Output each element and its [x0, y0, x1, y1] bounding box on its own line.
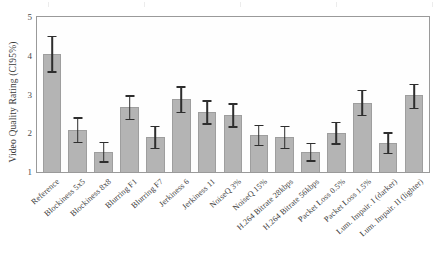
error-bar-cap-lower [125, 119, 134, 121]
bar-slot [246, 17, 272, 172]
bar-slot [298, 17, 324, 172]
error-bar-cap-upper [73, 117, 82, 119]
error-bar-cap-lower [358, 115, 367, 117]
error-bar-cap-upper [358, 90, 367, 92]
bar-slot [194, 17, 220, 172]
error-bar-line [284, 126, 286, 148]
error-bar-line [387, 132, 389, 152]
y-axis-tick-labels: 54321 [16, 0, 32, 271]
error-bar-cap-upper [151, 126, 160, 128]
error-bar-line [180, 86, 182, 112]
bar-slot [220, 17, 246, 172]
y-tick-label: 5 [18, 13, 32, 22]
bar-slot [349, 17, 375, 172]
error-bar-cap-lower [306, 160, 315, 162]
bar-slot [91, 17, 117, 172]
bar-slot [117, 17, 143, 172]
x-axis-tick-labels: ReferenceBlockiness 5x5Blockiness 8x8Blu… [36, 173, 430, 271]
error-bar-cap-lower [384, 153, 393, 155]
bar-series [37, 17, 429, 172]
error-bar-cap-upper [280, 126, 289, 128]
error-bar-line [310, 143, 312, 161]
plot-area [36, 16, 430, 173]
scan-artifact [0, 2, 447, 7]
error-bar-line [258, 125, 260, 145]
error-bar-cap-upper [409, 84, 418, 86]
bar-slot [65, 17, 91, 172]
y-tick-label: 1 [18, 168, 32, 177]
error-bar-cap-lower [99, 161, 108, 163]
error-bar-line [103, 142, 105, 161]
error-bar-line [77, 117, 79, 141]
y-tick-label: 3 [18, 91, 32, 100]
error-bar-line [336, 122, 338, 144]
error-bar-cap-lower [332, 143, 341, 145]
error-bar-cap-upper [254, 125, 263, 127]
bar-slot [39, 17, 65, 172]
error-bar-cap-lower [228, 126, 237, 128]
error-bar-line [206, 100, 208, 123]
bar-slot [272, 17, 298, 172]
video-quality-bar-chart: Video Quality Rating (CI95%) 54321 Refer… [0, 0, 447, 271]
error-bar-cap-upper [125, 95, 134, 97]
error-bar-line [361, 90, 363, 115]
error-bar-cap-upper [384, 132, 393, 134]
error-bar-cap-lower [177, 112, 186, 114]
error-bar-line [155, 126, 157, 148]
error-bar-cap-upper [332, 122, 341, 124]
error-bar-cap-lower [254, 145, 263, 147]
error-bar-cap-lower [203, 123, 212, 125]
error-bar-cap-lower [409, 108, 418, 110]
error-bar-line [51, 36, 53, 72]
bar-slot [375, 17, 401, 172]
error-bar-cap-upper [203, 100, 212, 102]
error-bar-cap-lower [151, 148, 160, 150]
error-bar-line [413, 84, 415, 108]
y-tick-label: 4 [18, 52, 32, 61]
error-bar-cap-lower [280, 148, 289, 150]
bar-slot [142, 17, 168, 172]
y-tick-label: 2 [18, 129, 32, 138]
error-bar-cap-upper [228, 103, 237, 105]
bar-slot [401, 17, 427, 172]
error-bar-cap-upper [99, 142, 108, 144]
error-bar-line [232, 103, 234, 126]
bar-slot [323, 17, 349, 172]
error-bar-cap-lower [73, 142, 82, 144]
error-bar-line [129, 95, 131, 118]
error-bar-cap-upper [306, 143, 315, 145]
error-bar-cap-upper [177, 86, 186, 88]
error-bar-cap-upper [47, 36, 56, 38]
error-bar-cap-lower [47, 71, 56, 73]
bar-slot [168, 17, 194, 172]
